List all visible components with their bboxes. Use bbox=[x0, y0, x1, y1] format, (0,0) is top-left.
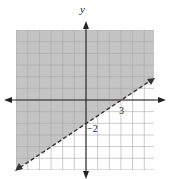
y-axis-down-arrow-icon bbox=[83, 171, 89, 179]
x-intercept-label: 3 bbox=[119, 105, 124, 116]
y-axis-label: y bbox=[79, 3, 85, 15]
x-axis-right-arrow-icon bbox=[158, 97, 166, 103]
inequality-graph: y 3 −2 bbox=[0, 0, 171, 179]
y-axis-up-arrow-icon bbox=[83, 21, 89, 29]
x-axis-left-arrow-icon bbox=[4, 97, 12, 103]
y-intercept-label: −2 bbox=[87, 123, 98, 134]
